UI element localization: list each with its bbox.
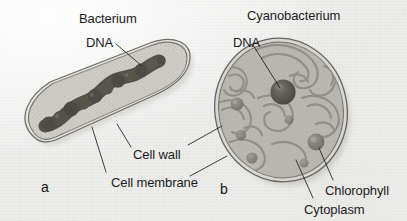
- panel-letter-a: a: [41, 180, 49, 195]
- label-bacterium: Bacterium: [79, 12, 137, 26]
- panel-letter-b: b: [220, 182, 228, 197]
- leader-cell-wall-a: [117, 124, 131, 147]
- label-dna-bacterium: DNA: [86, 36, 113, 50]
- label-dna-cyanobacterium: DNA: [233, 36, 260, 50]
- leader-cell-wall-b: [188, 126, 222, 145]
- cyanobacterium-cell: [201, 26, 363, 198]
- label-cell-membrane: Cell membrane: [111, 176, 198, 190]
- leader-cell-membrane-b: [190, 156, 227, 176]
- label-cell-wall: Cell wall: [133, 148, 181, 162]
- leader-cell-membrane-a: [92, 127, 106, 172]
- chlorophyll-granule: [308, 134, 325, 151]
- label-chlorophyll: Chlorophyll: [325, 184, 389, 198]
- cyanobacterium-dna-body: [270, 79, 295, 104]
- label-cyanobacterium: Cyanobacterium: [247, 9, 340, 23]
- biology-figure: Bacterium DNA Cyanobacterium DNA Cell wa…: [0, 0, 407, 221]
- label-cytoplasm: Cytoplasm: [304, 203, 365, 217]
